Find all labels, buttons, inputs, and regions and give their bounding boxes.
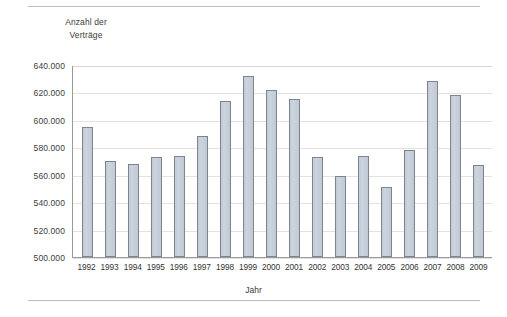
x-axis-tick-label: 1995 [144, 262, 167, 272]
x-axis-tick-label: 1999 [236, 262, 259, 272]
bar-2000[interactable] [266, 90, 277, 257]
x-axis-tick-label: 2004 [352, 262, 375, 272]
y-axis-tick-label: 580.000 [34, 143, 65, 153]
bar-slot [191, 66, 214, 257]
bar-2005[interactable] [381, 187, 392, 257]
x-axis-label: Jahr [0, 285, 507, 295]
y-axis-tick-label: 520.000 [34, 226, 65, 236]
bar-slot [398, 66, 421, 257]
x-axis-tick-label: 2009 [467, 262, 490, 272]
plot-wrapper: 640.000620.000600.000580.000560.000540.0… [72, 66, 492, 258]
bar-slot [145, 66, 168, 257]
y-axis-title: Anzahl der Verträge [40, 16, 132, 41]
x-axis-tick-labels: 1992199319941995199619971998199920002001… [72, 262, 492, 272]
bar-2002[interactable] [312, 157, 323, 257]
y-axis-title-line-2: Verträge [40, 29, 132, 42]
y-axis-tick-label: 560.000 [34, 171, 65, 181]
bar-2009[interactable] [473, 165, 484, 257]
bar-slot [352, 66, 375, 257]
y-axis-tick-label: 500.000 [34, 253, 65, 263]
x-axis-tick-label: 1993 [98, 262, 121, 272]
x-axis-tick-label: 2007 [421, 262, 444, 272]
y-axis-tick-label: 620.000 [34, 88, 65, 98]
bar-1997[interactable] [197, 136, 208, 257]
x-axis-tick-label: 1992 [75, 262, 98, 272]
x-axis-tick-label: 2003 [329, 262, 352, 272]
x-axis-tick-label: 1997 [190, 262, 213, 272]
gridline [73, 258, 492, 259]
x-axis-tick-label: 1994 [121, 262, 144, 272]
bar-2008[interactable] [450, 95, 461, 257]
bar-slot [467, 66, 490, 257]
bar-slot [421, 66, 444, 257]
y-axis-tick-label: 640.000 [34, 61, 65, 71]
bar-1998[interactable] [220, 101, 231, 257]
bar-1994[interactable] [128, 164, 139, 257]
bar-slot [122, 66, 145, 257]
bar-1995[interactable] [151, 157, 162, 257]
bars-group [73, 66, 492, 257]
bar-slot [237, 66, 260, 257]
x-axis-tick-label: 1996 [167, 262, 190, 272]
bar-1996[interactable] [174, 156, 185, 257]
bar-1993[interactable] [105, 161, 116, 257]
x-axis-tick-label: 1998 [213, 262, 236, 272]
x-axis-tick-label: 2006 [398, 262, 421, 272]
bar-slot [375, 66, 398, 257]
y-axis-title-line-1: Anzahl der [40, 16, 132, 29]
bar-2006[interactable] [404, 150, 415, 257]
bar-chart-figure: Anzahl der Verträge 640.000620.000600.00… [0, 0, 507, 317]
x-axis-tick-label: 2000 [260, 262, 283, 272]
bar-slot [214, 66, 237, 257]
y-axis-tick-label: 600.000 [34, 116, 65, 126]
bar-slot [444, 66, 467, 257]
bar-2007[interactable] [427, 81, 438, 257]
bar-2001[interactable] [289, 99, 300, 257]
bar-2003[interactable] [335, 176, 346, 257]
bar-slot [99, 66, 122, 257]
plot-area [72, 66, 492, 258]
x-axis-tick-label: 2008 [444, 262, 467, 272]
bottom-divider [28, 300, 480, 301]
bar-1999[interactable] [243, 76, 254, 257]
x-axis-tick-label: 2001 [283, 262, 306, 272]
y-axis-tick-label: 540.000 [34, 198, 65, 208]
bar-slot [260, 66, 283, 257]
bar-slot [329, 66, 352, 257]
bar-1992[interactable] [82, 127, 93, 257]
top-divider [28, 6, 480, 7]
x-axis-tick-label: 2005 [375, 262, 398, 272]
bar-slot [168, 66, 191, 257]
x-axis-tick-label: 2002 [306, 262, 329, 272]
bar-slot [306, 66, 329, 257]
bar-2004[interactable] [358, 156, 369, 257]
bar-slot [283, 66, 306, 257]
bar-slot [76, 66, 99, 257]
